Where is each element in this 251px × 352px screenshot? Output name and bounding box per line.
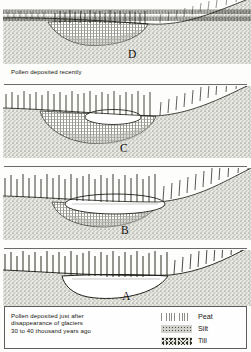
panel-letter-D: D [128,48,136,60]
panel-letter-A: A [122,290,130,302]
caption-panel-D: Pollen deposited recently [11,68,82,75]
divider-D-C [4,84,247,85]
legend-box: Pollen deposited just after disappearanc… [4,306,247,349]
legend-label-peat: Peat [198,312,213,321]
peat-swatch-icon [161,313,192,321]
silt-swatch-icon [161,325,192,333]
panel-letter-C: C [120,142,128,154]
divider-C-B [4,166,247,167]
panel-D-cross-section [0,0,251,64]
panel-B: B [0,168,251,240]
caption-panel-A: Pollen deposited just after disappearanc… [11,312,131,334]
till-swatch-icon [161,337,192,345]
divider-B-A [4,248,247,249]
legend-label-silt: Silt [198,324,208,333]
panel-C: C [0,86,251,158]
legend-label-till: Till [198,336,207,345]
panel-A: A [0,250,251,306]
panel-letter-B: B [121,224,129,236]
lake-infilling-figure: D Pollen deposited recently [0,0,251,352]
panel-D: D [0,0,251,64]
